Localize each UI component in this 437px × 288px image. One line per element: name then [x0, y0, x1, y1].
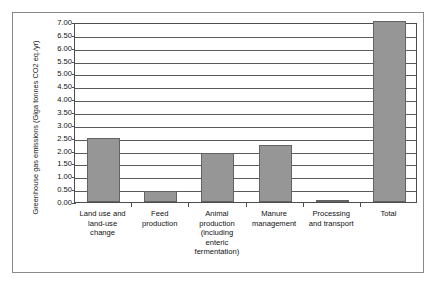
category-label-line: change — [74, 228, 131, 238]
category-label: Manuremanagement — [246, 209, 303, 228]
category-label: Total — [360, 209, 417, 219]
category-label-line: enteric — [188, 238, 245, 248]
bar — [259, 145, 292, 202]
y-tick-label: 2.50 — [38, 135, 72, 143]
y-tick-label: 5.50 — [38, 58, 72, 66]
category-label-line: production — [131, 219, 188, 229]
bar — [201, 153, 234, 202]
gridline — [75, 127, 416, 128]
y-tick-label: 1.50 — [38, 161, 72, 169]
category-label-line: land-use — [74, 219, 131, 229]
y-tick-label: 7.00 — [38, 19, 72, 27]
y-tick-label: 3.50 — [38, 109, 72, 117]
category-label-line: Processing — [303, 209, 360, 219]
y-tick-label: 2.00 — [38, 148, 72, 156]
y-tick-label: 3.00 — [38, 122, 72, 130]
bar — [87, 138, 120, 202]
bar — [144, 191, 177, 202]
category-label: Land use andland-usechange — [74, 209, 131, 238]
gridline — [75, 165, 416, 166]
y-tick-label: 4.00 — [38, 96, 72, 104]
category-label-line: Manure — [246, 209, 303, 219]
x-tick-mark — [303, 203, 304, 207]
gridline — [75, 191, 416, 192]
gridline — [75, 101, 416, 102]
y-tick-label: 0.00 — [38, 199, 72, 207]
x-tick-mark — [188, 203, 189, 207]
plot-area — [74, 23, 417, 203]
y-tick-label: 6.00 — [38, 45, 72, 53]
category-label-line: Feed — [131, 209, 188, 219]
gridline — [75, 153, 416, 154]
gridline — [75, 140, 416, 141]
gridline — [75, 88, 416, 89]
bar — [373, 21, 406, 202]
gridline — [75, 63, 416, 64]
y-tick-label: 5.00 — [38, 71, 72, 79]
category-label: Processingand transport — [303, 209, 360, 228]
x-tick-mark — [360, 203, 361, 207]
category-label-line: Land use and — [74, 209, 131, 219]
category-label-line: production — [188, 219, 245, 229]
x-axis-category-labels: Land use andland-usechangeFeedproduction… — [74, 209, 417, 279]
y-tick-label: 6.50 — [38, 32, 72, 40]
gridline — [75, 178, 416, 179]
chart-figure: Greenhouse gas emissions (Giga tonnes CO… — [0, 0, 437, 288]
category-label: Feedproduction — [131, 209, 188, 228]
category-label-line: fermentation) — [188, 247, 245, 257]
bar — [316, 200, 349, 202]
y-tick-label: 1.00 — [38, 173, 72, 181]
x-tick-mark — [246, 203, 247, 207]
chart-outer-frame: Greenhouse gas emissions (Giga tonnes CO… — [12, 12, 424, 273]
y-tick-mark — [72, 203, 76, 204]
category-label-line: Animal — [188, 209, 245, 219]
gridline — [75, 75, 416, 76]
x-tick-mark — [131, 203, 132, 207]
category-label-line: Total — [360, 209, 417, 219]
gridline — [75, 37, 416, 38]
gridline — [75, 114, 416, 115]
category-label: Animalproduction(includingentericferment… — [188, 209, 245, 257]
category-label-line: (including — [188, 228, 245, 238]
gridline — [75, 50, 416, 51]
y-axis-ticks: 0.000.501.001.502.002.503.003.504.004.50… — [33, 23, 72, 203]
y-tick-label: 0.50 — [38, 186, 72, 194]
y-tick-label: 4.50 — [38, 83, 72, 91]
category-label-line: management — [246, 219, 303, 229]
category-label-line: and transport — [303, 219, 360, 229]
